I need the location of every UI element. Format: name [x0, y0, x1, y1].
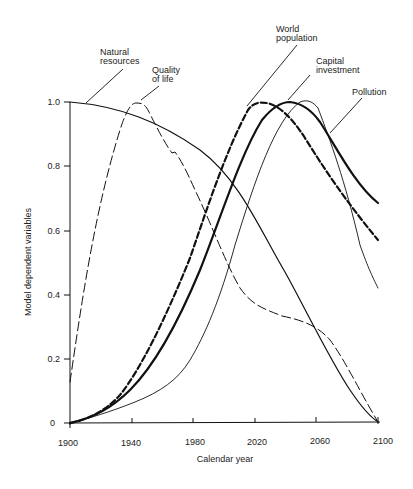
x-tick-label: 1980 — [185, 437, 205, 447]
axes — [64, 102, 380, 428]
leader-capital-investment — [288, 75, 310, 100]
x-tick-label: 2060 — [310, 436, 330, 446]
label-world-population-line2: population — [276, 33, 318, 43]
x-tick-label: 1900 — [58, 438, 78, 448]
leader-pollution — [330, 98, 362, 133]
series-quality-of-life — [70, 103, 378, 422]
x-tick-label: 2100 — [373, 436, 393, 446]
leader-quality-of-life — [141, 86, 159, 100]
y-tick-label: 0.4 — [47, 290, 60, 300]
label-natural-resources-line2: resources — [100, 56, 140, 66]
leader-world-population — [247, 45, 297, 106]
y-tick-label: 1.0 — [47, 97, 60, 107]
y-tick-label: 0.8 — [47, 161, 60, 171]
series-world-population — [70, 103, 378, 423]
y-axis-title: Model dependent variables — [23, 207, 33, 316]
label-quality-of-life-line2: of life — [152, 74, 174, 84]
chart: 1.0 0.8 0.6 0.4 0.2 0 1900 1940 1980 202… — [0, 0, 413, 489]
y-tick-label: 0.2 — [47, 354, 60, 364]
series-capital-investment — [70, 102, 378, 423]
label-pollution: Pollution — [352, 87, 387, 97]
y-tick-label: 0 — [50, 418, 55, 428]
x-axis-title: Calendar year — [197, 454, 254, 464]
x-axis — [64, 422, 380, 423]
leader-natural-resources — [86, 69, 123, 103]
y-tick-label: 0.6 — [47, 226, 60, 236]
series-pollution — [70, 101, 378, 423]
x-tick-label: 2020 — [247, 437, 267, 447]
label-capital-investment-line2: investment — [316, 65, 360, 75]
x-tick-label: 1940 — [121, 438, 141, 448]
series-natural-resources — [70, 102, 378, 422]
